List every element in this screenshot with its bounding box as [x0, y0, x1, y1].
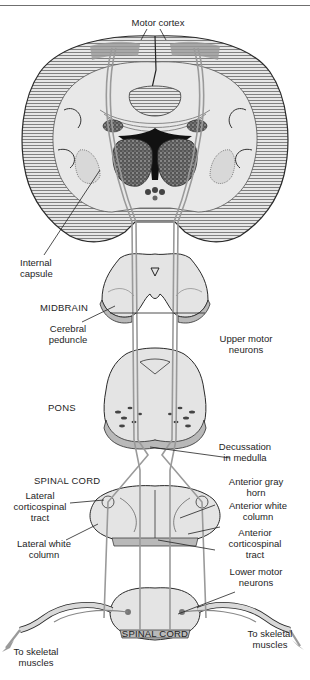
corticospinal-pathway-diagram: Motor cortex Internal capsule MIDBRAIN C… — [0, 0, 310, 680]
label-upper-motor-neurons: Upper motor neurons — [206, 333, 286, 355]
label-pons: PONS — [48, 402, 98, 413]
label-decussation-in-medulla: Decussation in medulla — [200, 441, 290, 463]
label-to-skeletal-muscles-right: To skeletal muscles — [238, 628, 302, 650]
label-lateral-white-column: Lateral white column — [6, 538, 82, 560]
label-motor-cortex: Motor cortex — [118, 17, 198, 28]
label-internal-capsule: Internal capsule — [20, 257, 70, 279]
label-cerebral-peduncle: Cerebral peduncle — [38, 323, 98, 345]
label-anterior-corticospinal-tract: Anterior corticospinal tract — [210, 527, 300, 560]
label-midbrain: MIDBRAIN — [40, 302, 100, 313]
pons-section — [104, 348, 206, 449]
label-lateral-corticospinal-tract: Lateral corticospinal tract — [2, 490, 78, 523]
label-anterior-white-column: Anterior white column — [216, 500, 300, 522]
label-lower-motor-neurons: Lower motor neurons — [212, 566, 300, 588]
label-spinal-cord-lower: SPINAL CORD — [110, 628, 200, 639]
label-spinal-cord-upper: SPINAL CORD — [34, 475, 114, 486]
cerebrum — [22, 36, 288, 242]
label-anterior-gray-horn: Anterior gray horn — [212, 476, 300, 498]
upper-spinal-cord — [90, 486, 220, 546]
label-to-skeletal-muscles-left: To skeletal muscles — [6, 646, 66, 668]
